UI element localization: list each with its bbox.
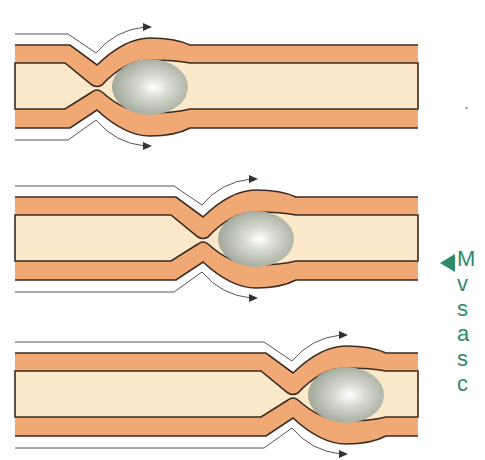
bolus [218,211,294,267]
caption-line: c [457,371,468,396]
stray-mark: • [465,103,468,112]
caption-pointer-icon [440,254,455,272]
caption-line: v [457,271,468,296]
peristalsis-diagram: • [0,0,485,460]
arrowhead-icon [143,142,152,150]
arrowhead-icon [249,294,258,302]
arrowhead-icon [339,331,348,339]
bolus [308,367,384,423]
caption-line: M [457,246,475,271]
caption-line: s [457,296,468,321]
arrowhead-icon [249,175,258,183]
caption-line: s [457,346,468,371]
panel-2 [15,175,418,302]
bolus [112,59,188,115]
panel-3 [15,331,418,458]
panel-1 [15,23,418,150]
arrowhead-icon [339,450,348,458]
caption-line: a [457,321,469,346]
arrowhead-icon [143,23,152,31]
